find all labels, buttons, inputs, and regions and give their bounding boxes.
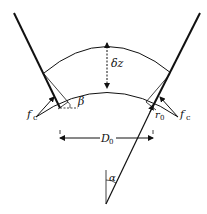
axis-line: [106, 108, 152, 204]
fc-right-subscript: c: [186, 113, 191, 122]
meniscus-diagram: δz β f c f c r 0 D 0 α: [0, 0, 207, 214]
left-force-arrow: [36, 97, 54, 117]
fc-right-label: f: [179, 108, 186, 121]
delta-z-label: δz: [111, 57, 124, 70]
right-wall-line: [152, 13, 200, 108]
r0-subscript: 0: [160, 114, 164, 122]
fc-left-subscript: c: [33, 113, 38, 122]
diagram-svg: δz β f c f c r 0 D 0 α: [0, 0, 207, 214]
alpha-label: α: [109, 172, 116, 183]
beta-label: β: [77, 95, 84, 108]
left-wall-line: [14, 13, 60, 108]
fc-left-label: f: [26, 108, 33, 121]
beta-angle-arc: [68, 102, 70, 108]
d0-subscript: 0: [109, 138, 113, 146]
